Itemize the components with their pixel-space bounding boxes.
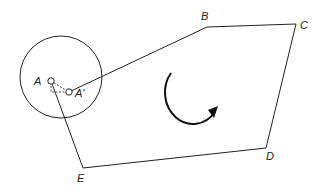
outer-circle <box>20 36 102 118</box>
label-e: E <box>77 172 85 184</box>
point-a <box>48 78 54 84</box>
label-d: D <box>266 150 274 162</box>
label-a: A <box>33 75 41 87</box>
label-c: C <box>300 19 308 31</box>
diagram-canvas: A A' B C D E <box>0 0 318 191</box>
rotation-arrowhead-icon <box>208 106 218 118</box>
label-a-prime: A' <box>74 87 85 99</box>
rotation-arc <box>165 73 215 124</box>
point-a-prime <box>66 89 72 95</box>
label-b: B <box>201 10 208 22</box>
